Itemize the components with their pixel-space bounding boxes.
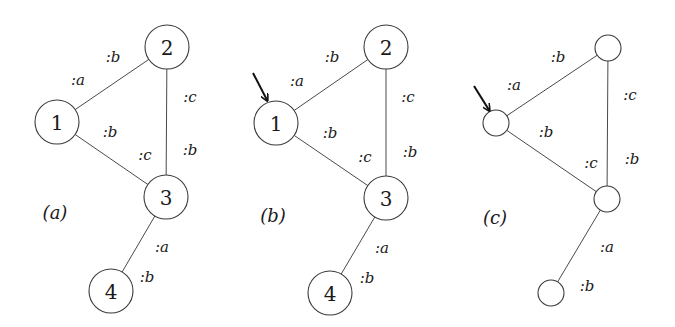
graph-node: [538, 280, 564, 306]
graph-edge: [341, 217, 375, 274]
panel-caption: (c): [483, 207, 507, 228]
graph-node: [595, 35, 621, 61]
graph-edge: [294, 135, 368, 185]
edge-label: :b: [403, 143, 418, 161]
node-label: 4: [105, 280, 118, 304]
graph-node: 4: [89, 269, 133, 313]
graph-edge: [166, 69, 167, 175]
edge-label: :b: [625, 150, 640, 168]
edge-label: :c: [623, 86, 637, 104]
edge-label: :a: [507, 76, 521, 94]
graph-edge: [558, 210, 601, 282]
node-label: 2: [380, 36, 393, 60]
edge-label: :a: [600, 238, 614, 256]
graph-node: 2: [364, 25, 408, 69]
node-circle: [594, 186, 620, 212]
graph-node: 4: [308, 271, 352, 315]
node-label: 3: [380, 187, 393, 211]
edge-label: :b: [106, 48, 121, 66]
edge-label: :b: [140, 268, 155, 286]
start-arrow-icon: [474, 86, 489, 110]
panel-caption: (a): [43, 202, 68, 223]
edge-label: :a: [155, 238, 169, 256]
graph-edge: [294, 60, 368, 111]
graph-node: 2: [145, 25, 189, 69]
edge-label: :a: [375, 239, 389, 257]
edge-label: :a: [71, 71, 85, 89]
edge-label: :c: [401, 88, 415, 106]
node-label: 4: [324, 282, 337, 306]
edge-label: :b: [183, 141, 198, 159]
edge-label: :b: [551, 48, 566, 66]
edge-label: :b: [103, 123, 118, 141]
panel-c: :b:a:c:b:b:c:a:b(c): [474, 35, 639, 306]
panel-a: 1234:b:a:c:b:b:c:a:b(a): [35, 25, 197, 313]
start-arrow-icon: [253, 73, 267, 100]
graph-node: [594, 186, 620, 212]
graph-node: [483, 110, 509, 136]
edge-label: :c: [138, 146, 152, 164]
graph-node: 3: [364, 176, 408, 220]
panel-caption: (b): [260, 205, 286, 226]
edge-label: :b: [325, 48, 340, 66]
edge-label: :b: [580, 277, 595, 295]
node-label: 2: [161, 36, 174, 60]
graph-edge: [607, 61, 608, 186]
node-label: 1: [51, 111, 64, 135]
graph-node: 3: [144, 175, 188, 219]
graph-diagram: 1234:b:a:c:b:b:c:a:b(a)1234:b:a:c:b:b:c:…: [0, 0, 675, 327]
graph-edge: [75, 59, 149, 109]
node-circle: [538, 280, 564, 306]
edge-label: :a: [290, 72, 304, 90]
node-circle: [483, 110, 509, 136]
edge-label: :b: [539, 123, 554, 141]
graph-node: 1: [254, 101, 298, 145]
graph-edge: [122, 216, 155, 272]
edge-label: :c: [183, 88, 197, 106]
node-label: 1: [270, 112, 283, 136]
graph-node: 1: [35, 100, 79, 144]
edge-label: :b: [360, 269, 375, 287]
panel-b: 1234:b:a:c:b:b:c:a:b(b): [253, 25, 417, 315]
graph-edge: [75, 134, 148, 184]
edge-label: :c: [584, 154, 598, 172]
edge-label: :c: [358, 148, 372, 166]
node-label: 3: [160, 186, 173, 210]
edge-label: :b: [323, 124, 338, 142]
node-circle: [595, 35, 621, 61]
